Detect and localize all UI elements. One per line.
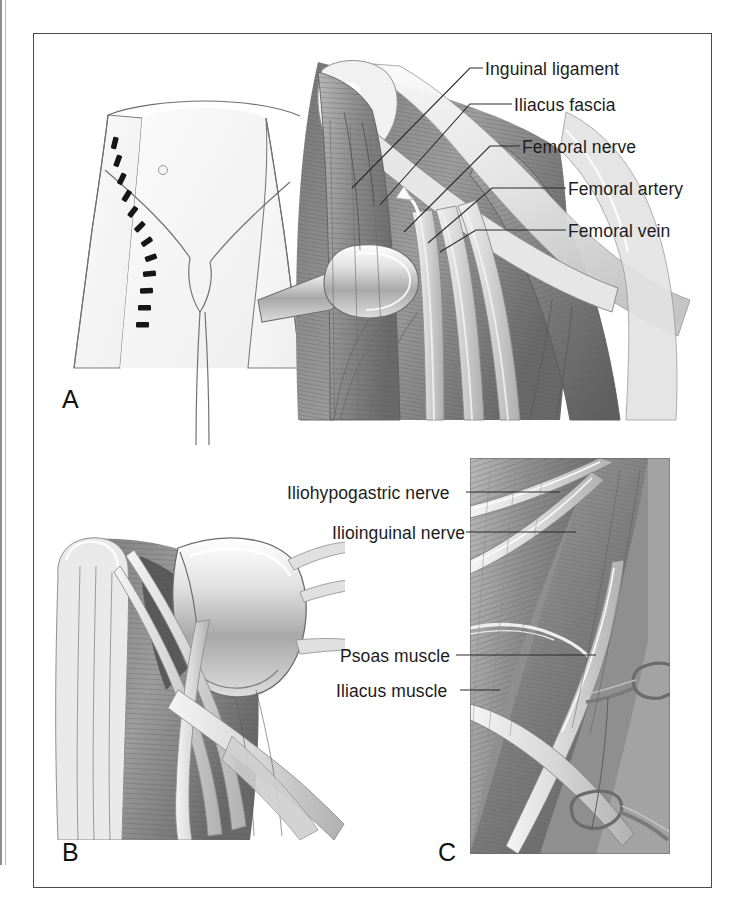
label-iliacus-muscle: Iliacus muscle — [336, 681, 447, 702]
label-femoral-nerve: Femoral nerve — [522, 137, 636, 158]
panel-letter-c: C — [438, 838, 457, 867]
label-femoral-vein: Femoral vein — [568, 221, 670, 242]
label-psoas-muscle: Psoas muscle — [340, 646, 450, 667]
label-ilioinguinal-nerve: Ilioinguinal nerve — [332, 523, 465, 544]
label-iliacus-fascia: Iliacus fascia — [514, 95, 616, 116]
scan-edge-outer — [0, 0, 2, 865]
scan-edge-inner — [5, 0, 6, 865]
label-inguinal-ligament: Inguinal ligament — [485, 59, 619, 80]
label-iliohypogastric-nerve: Iliohypogastric nerve — [287, 483, 450, 504]
figure-frame — [33, 33, 712, 888]
panel-letter-b: B — [62, 838, 79, 867]
label-femoral-artery: Femoral artery — [568, 179, 683, 200]
panel-letter-a: A — [62, 385, 79, 414]
